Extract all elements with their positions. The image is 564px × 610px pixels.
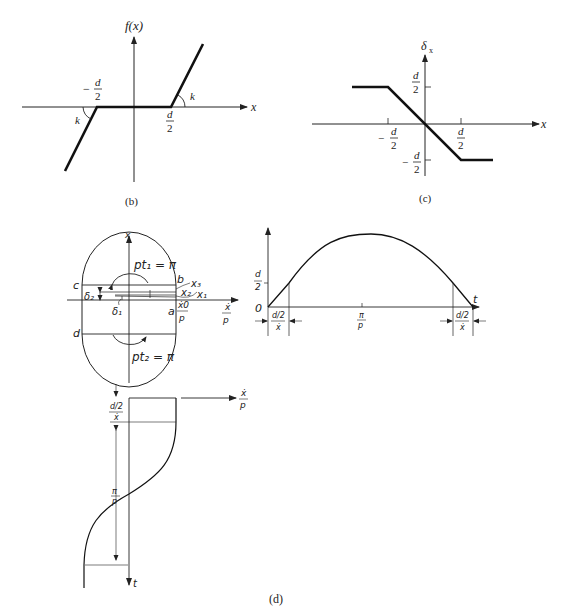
right-interval-num: d/2 (456, 311, 469, 320)
x0-label-num: ẋ0 (177, 300, 189, 310)
t-axis-label: t (133, 578, 138, 589)
delta1-label: δ₁ (112, 306, 122, 317)
tick-label-pos-d2-num: d (458, 125, 464, 137)
d2-tick-den: 2 (255, 282, 261, 292)
point-d: d (73, 327, 81, 340)
pi-over-p-den: p (357, 321, 363, 330)
tick-label-d2-top-den: 2 (413, 83, 419, 95)
point-c: c (73, 279, 79, 292)
interval-num: d/2 (110, 402, 123, 411)
tick-label-neg-d2-num: d (391, 125, 397, 137)
delta2-label: δ₂ (84, 291, 94, 302)
figure-c-displacement-plot: δ x x d 2 − d 2 d 2 − d 2 (c) (312, 39, 547, 205)
velocity-axis-label-den: p (222, 315, 229, 325)
caption-c: (c) (419, 192, 432, 205)
d2-tick-num: d (255, 269, 261, 279)
trajectory-label-x3: x₃ (190, 278, 201, 289)
pos-half-d-den: 2 (167, 122, 173, 134)
neg-half-d-den: 2 (95, 90, 101, 102)
y-axis-label-sub: x (429, 46, 433, 55)
point-b: b (177, 273, 184, 286)
origin-label: 0 (255, 302, 262, 315)
velocity-axis-label-den: p (239, 400, 246, 410)
displacement-time-curve (268, 234, 473, 307)
interval-den: ẋ (113, 413, 119, 422)
caption-b: (b) (125, 195, 138, 208)
x0-label-den: p (178, 313, 185, 323)
tick-label-neg-d2-y-num: d (414, 149, 420, 161)
figure-b-deadzone-plot: f(x) x − d 2 d 2 k k (b) (22, 18, 257, 208)
y-axis-label: δ (421, 39, 427, 53)
period-num: π (112, 487, 117, 496)
left-interval-den: ẋ (275, 323, 281, 332)
x-axis-label: x (124, 230, 131, 240)
velocity-axis-label-num: ẋ (240, 388, 247, 398)
neg-half-d-num: d (95, 76, 101, 88)
right-interval-den: ẋ (459, 323, 465, 332)
figure-d-time-response: d 2 0 t π p d/2 ẋ d/2 ẋ (254, 228, 486, 336)
caption-d: (d) (269, 592, 283, 606)
top-arc-label: pt₁ = π (133, 258, 177, 272)
velocity-axis-label-num: ẋ (224, 302, 231, 312)
bottom-half-cycle-arrow (113, 335, 146, 345)
period-den: p (111, 497, 117, 506)
tick-label-neg-d2-den: 2 (391, 139, 397, 151)
figure-canvas: f(x) x − d 2 d 2 k k (b) δ x x d 2 − d 2… (0, 0, 564, 610)
tick-label-pos-d2-den: 2 (458, 139, 464, 151)
figure-d-velocity-time: d/2 ẋ π p t ẋ p (84, 384, 248, 589)
slope-angle-arc-right (178, 95, 185, 107)
pi-over-p-num: π (359, 311, 364, 320)
tick-label-neg-d2-y-den: 2 (414, 163, 420, 175)
trajectory-label-x2: x₂ (180, 287, 191, 298)
trajectory-x1 (115, 296, 176, 297)
neg-sign: − (83, 82, 90, 96)
slope-angle-arc-left (83, 107, 91, 119)
tick-label-d2-top-num: d (413, 69, 419, 81)
top-half-cycle-arrow (112, 274, 148, 285)
x-axis-label: x (540, 117, 547, 131)
neg-sign: − (378, 132, 384, 144)
velocity-time-curve (84, 398, 176, 588)
slope-k-right: k (190, 90, 196, 102)
neg-sign: − (402, 156, 408, 168)
left-interval-num: d/2 (272, 311, 285, 320)
bottom-arc-label: pt₂ = π (131, 350, 175, 364)
slope-k-left: k (75, 114, 81, 126)
figure-d-phase-plane: x pt₁ = π pt₂ = π c b a d x₃ x₂ x₁ δ₂ δ₁… (67, 230, 238, 387)
trajectory-label-x1: x₁ (196, 289, 207, 300)
point-a: a (168, 305, 175, 318)
pos-half-d-num: d (167, 108, 173, 120)
time-axis-label: t (473, 293, 478, 306)
x-axis-label: x (250, 100, 257, 114)
y-axis-label: f(x) (125, 18, 143, 33)
